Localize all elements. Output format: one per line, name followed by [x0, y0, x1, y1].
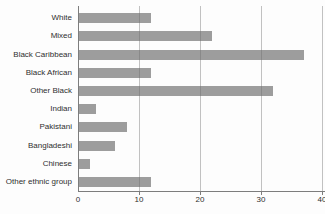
bar-row [78, 82, 322, 100]
bar-bangladeshi [78, 141, 115, 151]
category-labels: WhiteMixedBlack CaribbeanBlack AfricanOt… [0, 9, 72, 191]
bar-row [78, 27, 322, 45]
x-tick-label-40: 40 [318, 196, 325, 204]
plot-area [78, 6, 322, 191]
category-label-white: White [0, 9, 72, 27]
x-tick-label-20: 20 [196, 196, 205, 204]
bar-row [78, 155, 322, 173]
category-label-other-ethnic-group: Other ethnic group [0, 173, 72, 191]
y-axis-line [78, 6, 79, 192]
category-label-black-caribbean: Black Caribbean [0, 45, 72, 63]
x-axis-tick-labels: 010203040 [78, 196, 322, 208]
bar-row [78, 64, 322, 82]
bar-rows [78, 9, 322, 191]
category-label-black-african: Black African [0, 64, 72, 82]
x-tick-10 [139, 192, 140, 195]
bar-row [78, 100, 322, 118]
bar-black-african [78, 68, 151, 78]
gridline-40 [322, 6, 323, 191]
bar-black-caribbean [78, 50, 304, 60]
bar-row [78, 118, 322, 136]
category-label-indian: Indian [0, 100, 72, 118]
x-tick-20 [200, 192, 201, 195]
category-label-chinese: Chinese [0, 155, 72, 173]
x-tick-40 [322, 192, 323, 195]
bar-row [78, 45, 322, 63]
category-label-bangladeshi: Bangladeshi [0, 136, 72, 154]
bar-row [78, 9, 322, 27]
bar-row [78, 173, 322, 191]
bar-row [78, 136, 322, 154]
bar-chinese [78, 159, 90, 169]
bar-white [78, 13, 151, 23]
bar-indian [78, 104, 96, 114]
x-tick-label-30: 30 [257, 196, 266, 204]
x-tick-label-0: 0 [76, 196, 80, 204]
bar-chart: WhiteMixedBlack CaribbeanBlack AfricanOt… [0, 0, 325, 214]
bar-mixed [78, 31, 212, 41]
x-tick-label-10: 10 [135, 196, 144, 204]
bar-other-ethnic-group [78, 177, 151, 187]
category-label-mixed: Mixed [0, 27, 72, 45]
x-axis-line [78, 191, 325, 192]
category-label-pakistani: Pakistani [0, 118, 72, 136]
category-label-other-black: Other Black [0, 82, 72, 100]
bar-other-black [78, 86, 273, 96]
x-tick-30 [261, 192, 262, 195]
bar-pakistani [78, 122, 127, 132]
